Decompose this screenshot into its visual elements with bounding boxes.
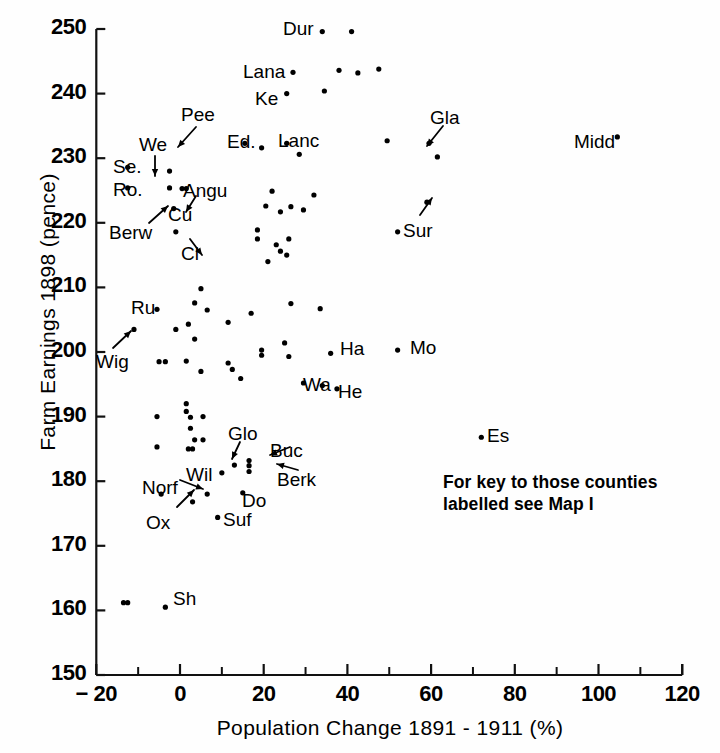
data-point: [192, 437, 197, 442]
point-label-cl: Cl: [181, 243, 199, 265]
data-point: [246, 463, 251, 468]
y-tick-label: 220: [24, 208, 86, 234]
point-label-suf: Suf: [223, 509, 252, 531]
x-tick-label: 40: [312, 681, 382, 707]
data-point: [156, 359, 161, 364]
data-point: [290, 70, 295, 75]
data-point: [198, 286, 203, 291]
data-point: [200, 437, 205, 442]
point-label-ke: Ke: [255, 88, 278, 110]
y-tick-label: 190: [24, 402, 86, 428]
data-point: [219, 470, 224, 475]
data-point: [238, 376, 243, 381]
point-label-angu: Angu: [183, 180, 227, 202]
data-point: [226, 360, 231, 365]
y-tick-label: 170: [24, 531, 86, 557]
data-point: [336, 68, 341, 73]
data-point: [269, 189, 274, 194]
data-point: [376, 66, 381, 71]
data-point: [355, 70, 360, 75]
data-point: [173, 229, 178, 234]
data-point: [184, 401, 189, 406]
data-point: [259, 145, 264, 150]
data-point: [263, 203, 268, 208]
data-point: [286, 236, 291, 241]
data-point: [385, 138, 390, 143]
data-point: [184, 409, 189, 414]
y-tick-label: 180: [24, 466, 86, 492]
point-label-sh: Sh: [173, 588, 196, 610]
data-point: [301, 207, 306, 212]
data-point: [230, 367, 235, 372]
data-point: [154, 414, 159, 419]
data-point: [311, 192, 316, 197]
data-point: [265, 259, 270, 264]
data-point: [167, 185, 172, 190]
data-point: [205, 492, 210, 497]
data-point: [198, 369, 203, 374]
x-tick-label: 0: [145, 681, 215, 707]
data-point: [154, 444, 159, 449]
data-point: [125, 600, 130, 605]
point-label-dur: Dur: [283, 18, 314, 40]
chart-note-line-2: labelled see Map I: [443, 494, 594, 516]
point-label-norf: Norf: [142, 477, 178, 499]
y-tick-label: 250: [24, 14, 86, 40]
data-point: [192, 300, 197, 305]
point-label-gla: Gla: [430, 107, 460, 129]
leader-arrowhead: [152, 169, 158, 176]
x-tick-label: 60: [396, 681, 466, 707]
data-point: [246, 458, 251, 463]
data-point: [320, 29, 325, 34]
data-point: [297, 152, 302, 157]
data-point: [163, 359, 168, 364]
data-point: [184, 358, 189, 363]
point-label-sur: Sur: [403, 220, 433, 242]
y-tick-label: 200: [24, 337, 86, 363]
data-point: [205, 307, 210, 312]
chart-note-line-1: For key to those counties: [443, 472, 657, 494]
point-label-ox: Ox: [146, 512, 170, 534]
point-label-ro: Ro.: [113, 179, 143, 201]
point-label-pee: Pee: [181, 104, 215, 126]
point-label-midd: Midd: [574, 131, 615, 153]
data-point: [232, 462, 237, 467]
point-label-berk: Berk: [277, 469, 316, 491]
y-tick-label: 240: [24, 79, 86, 105]
data-point: [200, 414, 205, 419]
data-point: [322, 88, 327, 93]
data-point: [190, 446, 195, 451]
data-point: [395, 347, 400, 352]
data-point: [226, 320, 231, 325]
data-point: [167, 169, 172, 174]
data-point: [255, 227, 260, 232]
data-point: [192, 336, 197, 341]
data-point: [255, 236, 260, 241]
point-label-cu: Cu: [168, 204, 192, 226]
data-point: [328, 351, 333, 356]
data-point: [288, 204, 293, 209]
point-label-ha: Ha: [340, 338, 364, 360]
x-tick-label: 100: [564, 681, 634, 707]
point-label-wil: Wil: [186, 464, 212, 486]
data-point: [131, 327, 136, 332]
point-label-wa: Wa: [303, 374, 331, 396]
data-point: [286, 354, 291, 359]
data-point: [190, 499, 195, 504]
x-tick-label: 20: [229, 681, 299, 707]
y-tick-label: 230: [24, 143, 86, 169]
data-point: [163, 605, 168, 610]
data-point: [284, 91, 289, 96]
data-point: [288, 301, 293, 306]
y-axis-title: Farm Earnings 1898 (pence): [36, 122, 60, 502]
point-label-buc: Buc: [270, 440, 303, 462]
point-label-berw: Berw: [109, 222, 152, 244]
data-point: [282, 340, 287, 345]
data-point: [186, 322, 191, 327]
data-point: [318, 306, 323, 311]
data-point: [188, 426, 193, 431]
data-point: [284, 253, 289, 258]
point-label-he: He: [338, 381, 362, 403]
scatter-plot-canvas: [0, 0, 720, 753]
x-tick-label: 120: [647, 681, 717, 707]
